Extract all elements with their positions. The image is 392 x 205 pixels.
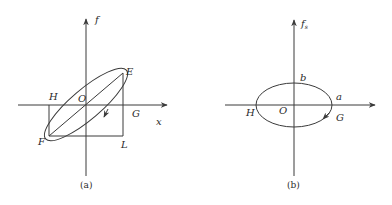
caption-a: (a) <box>80 180 92 190</box>
point-h-label: H <box>48 91 58 102</box>
f-axis-label: f <box>94 14 101 25</box>
panel-b: fs b a H O G (b) <box>225 18 375 190</box>
x-axis-label: x <box>156 116 162 127</box>
direction-arrow-icon <box>104 109 108 117</box>
direction-arrow-icon <box>323 113 329 119</box>
point-e-label: E <box>125 66 134 77</box>
point-g-label: G <box>336 112 344 123</box>
figure: f x E H O G F L (a) fs b a H O G (b) <box>0 0 392 205</box>
point-h-label: H <box>245 107 255 118</box>
semi-axis-b-label: b <box>300 72 306 83</box>
point-g-label: G <box>132 108 140 119</box>
point-o-label: O <box>78 93 86 104</box>
caption-b: (b) <box>287 180 300 190</box>
point-o-label: O <box>279 105 287 116</box>
panel-a: f x E H O G F L (a) <box>18 14 167 190</box>
point-l-label: L <box>120 139 128 150</box>
semi-axis-a-label: a <box>336 91 342 102</box>
fs-axis-label: fs <box>300 18 308 30</box>
point-f-label: F <box>37 136 46 147</box>
